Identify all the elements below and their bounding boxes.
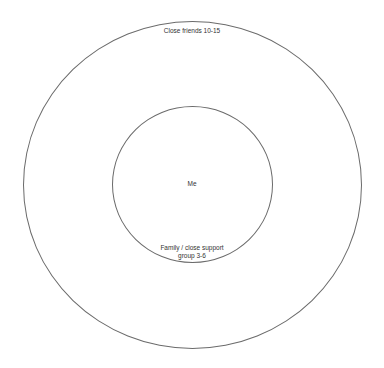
family-support-label-line1: Family / close support — [142, 244, 242, 252]
family-support-label: Family / close support group 3-6 — [142, 244, 242, 260]
family-support-label-line2: group 3-6 — [142, 252, 242, 260]
me-label: Me — [172, 180, 212, 188]
close-friends-label: Close friends 10-15 — [142, 27, 242, 35]
